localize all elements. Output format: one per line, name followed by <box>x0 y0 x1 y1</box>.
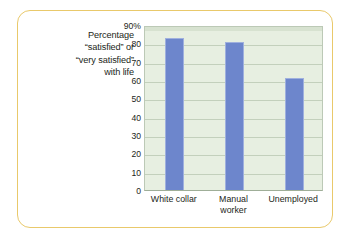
x-axis-tick-label-line: worker <box>219 205 248 216</box>
y-axis-tick-label: 80 <box>131 39 141 49</box>
y-axis-tick-label: 30 <box>131 131 141 141</box>
y-axis-tick-label: 40 <box>131 113 141 123</box>
y-axis-tick-label: 70 <box>131 58 141 68</box>
x-axis-tick-label: White collar <box>151 194 197 205</box>
y-axis: 0102030405060708090% <box>108 26 141 191</box>
bar-chart: 0102030405060708090% White collarManualw… <box>144 26 323 206</box>
x-axis: White collarManualworkerUnemployed <box>144 194 323 224</box>
y-axis-tick-label: 20 <box>131 149 141 159</box>
x-axis-tick-label-line: White collar <box>151 194 197 205</box>
y-axis-tick-label: 10 <box>131 168 141 178</box>
y-axis-tick-label: 90% <box>124 21 141 31</box>
y-axis-tick-label: 60 <box>131 76 141 86</box>
bar <box>165 38 184 190</box>
y-axis-tick-label: 0 <box>136 186 141 196</box>
figure-frame: Percentage “satisfied” or “very satisfie… <box>17 10 333 228</box>
bar <box>285 78 304 190</box>
x-axis-tick-label-line: Manual <box>219 194 248 205</box>
x-axis-tick-label-line: Unemployed <box>268 194 317 205</box>
bar <box>225 42 244 191</box>
x-axis-tick-label: Unemployed <box>268 194 317 205</box>
plot-area <box>144 26 323 191</box>
x-axis-tick-label: Manualworker <box>219 194 248 216</box>
bar-series <box>145 27 322 190</box>
y-axis-tick-label: 50 <box>131 94 141 104</box>
